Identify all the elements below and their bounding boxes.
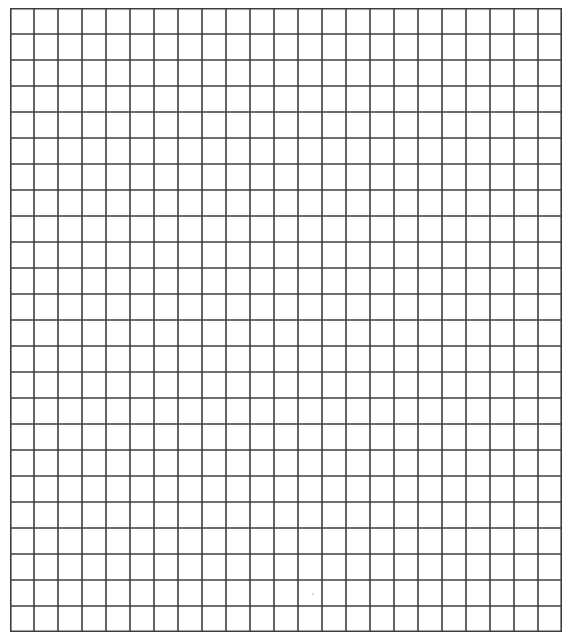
grid-paper: Blank square grid paper — [10, 8, 562, 632]
scan-speck — [312, 593, 314, 595]
grid-lines — [10, 8, 562, 632]
